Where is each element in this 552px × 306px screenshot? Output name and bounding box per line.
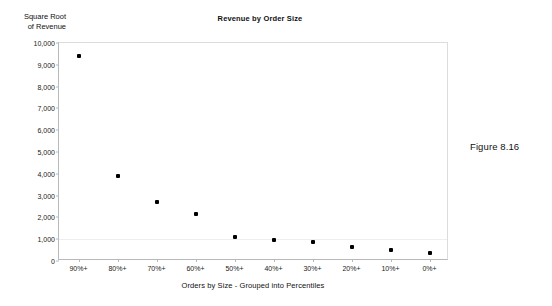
figure-caption: Figure 8.16 [470,141,519,152]
data-point [428,251,432,255]
data-point [155,200,159,204]
x-tick-mark [235,259,236,262]
x-tick-label: 0%+ [407,265,453,272]
x-tick-mark [118,259,119,262]
data-point [272,238,276,242]
data-point [389,248,393,252]
y-tick-label: 10,000 [3,40,59,47]
data-point [350,245,354,249]
x-tick-mark [430,259,431,262]
y-tick-label: 0 [3,258,59,265]
y-tick-label: 3,000 [3,192,59,199]
x-tick-mark [196,259,197,262]
y-tick-label: 6,000 [3,127,59,134]
plot-area: 01,0002,0003,0004,0005,0006,0007,0008,00… [58,42,448,260]
x-tick-mark [79,259,80,262]
x-tick-mark [391,259,392,262]
chart-figure: Revenue by Order Size Square Root of Rev… [0,0,460,306]
y-tick-label: 2,000 [3,214,59,221]
x-tick-mark [352,259,353,262]
x-axis-title: Orders by Size - Grouped into Percentile… [58,281,448,290]
y-axis-title: Square Root of Revenue [8,12,66,31]
chart-title: Revenue by Order Size [150,14,370,23]
data-point [233,235,237,239]
y-tick-label: 4,000 [3,170,59,177]
y-tick-label: 9,000 [3,61,59,68]
y-tick-label: 5,000 [3,149,59,156]
y-tick-label: 8,000 [3,83,59,90]
data-point [77,54,81,58]
y-tick-label: 7,000 [3,105,59,112]
data-point [116,174,120,178]
gridline [59,239,447,240]
x-tick-mark [274,259,275,262]
data-point [311,240,315,244]
x-tick-mark [313,259,314,262]
y-tick-label: 1,000 [3,236,59,243]
x-tick-mark [157,259,158,262]
data-point [194,212,198,216]
